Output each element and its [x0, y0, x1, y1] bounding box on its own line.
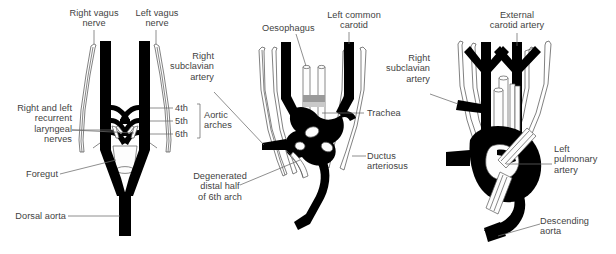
label-trachea: Trachea	[367, 108, 417, 118]
label-aortic-arches: Aortic arches	[204, 110, 248, 131]
right-common-carotid	[281, 42, 299, 117]
left-common-carotid	[336, 42, 354, 117]
label-descending-aorta: Descending aorta	[540, 216, 606, 237]
label-middle-right-subclavian-artery: Right subclavian artery	[152, 51, 214, 82]
label-left-vagus-nerve: Left vagus nerve	[112, 8, 202, 29]
label-left-common-carotid: Left common carotid	[312, 10, 396, 31]
panel-right-artwork	[446, 41, 551, 242]
aortic-root-stub	[446, 150, 470, 166]
label-right-panel-subclavian-artery: Right subclavian artery	[368, 53, 430, 84]
label-ductus-arteriosus: Ductus arteriosus	[367, 151, 423, 172]
middle-descending-aorta	[294, 160, 329, 230]
label-dorsal-aorta: Dorsal aorta	[0, 211, 66, 221]
label-left-pulmonary-artery: Left pulmonary artery	[554, 144, 612, 175]
panel-middle-artwork	[259, 42, 366, 230]
label-degenerated-sixth-arch: Degenerated distal half of 6th arch	[182, 171, 258, 202]
right-dorsal-aorta-trunk	[139, 41, 150, 150]
dorsal-aorta-descending	[119, 192, 131, 236]
anatomy-artwork	[0, 0, 616, 254]
label-foregut: Foregut	[0, 169, 58, 179]
leader-oesophagus	[296, 34, 306, 66]
leader-right-panel-subclavian	[430, 94, 458, 104]
aortic-arches-bracket	[197, 104, 200, 138]
left-dorsal-aorta-trunk	[100, 41, 111, 150]
label-external-carotid-artery: External carotid artery	[466, 10, 568, 31]
trachea-tube	[318, 67, 325, 120]
label-recurrent-laryngeal-nerves: Right and left recurrent laryngeal nerve…	[0, 103, 72, 145]
label-fourth-arch: 4th	[175, 103, 195, 113]
label-fifth-arch: 5th	[175, 116, 195, 126]
aortic-arch-development-figure: Right vagus nerve Left vagus nerve Right…	[0, 0, 616, 254]
label-sixth-arch: 6th	[175, 129, 195, 139]
